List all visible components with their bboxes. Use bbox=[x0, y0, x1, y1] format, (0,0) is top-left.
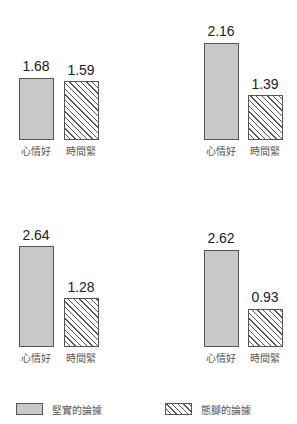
value-label: 1.68 bbox=[11, 58, 61, 74]
legend-swatch-hatched bbox=[165, 403, 192, 415]
category-label: 時間緊 bbox=[56, 143, 106, 158]
category-label: 心情好 bbox=[196, 350, 246, 365]
category-label: 心情好 bbox=[196, 143, 246, 158]
bar-time-pressure bbox=[64, 298, 99, 347]
legend-label-solid: 堅實的論據 bbox=[52, 402, 102, 417]
value-label: 1.39 bbox=[240, 76, 290, 92]
value-label: 2.64 bbox=[11, 227, 61, 243]
bar-good-mood bbox=[19, 246, 54, 347]
bar-good-mood bbox=[19, 78, 54, 140]
category-label: 時間緊 bbox=[240, 143, 290, 158]
value-label: 1.28 bbox=[56, 279, 106, 295]
category-label: 時間緊 bbox=[56, 350, 106, 365]
bar-time-pressure bbox=[64, 81, 99, 140]
chart-panel-4: 2.62 0.93 心情好 時間緊 bbox=[149, 212, 297, 424]
bar-time-pressure bbox=[248, 95, 283, 140]
category-label: 心情好 bbox=[11, 350, 61, 365]
legend-label-hatched: 態腳的論據 bbox=[201, 402, 251, 417]
category-label: 心情好 bbox=[11, 143, 61, 158]
value-label: 1.59 bbox=[56, 62, 106, 78]
legend-swatch-solid bbox=[16, 403, 43, 415]
value-label: 2.62 bbox=[196, 230, 246, 246]
bar-good-mood bbox=[204, 43, 239, 140]
chart-panel-3: 2.64 1.28 心情好 時間緊 bbox=[0, 212, 148, 424]
bar-good-mood bbox=[204, 250, 239, 347]
chart-panel-2: 2.16 1.39 心情好 時間緊 bbox=[149, 0, 297, 212]
bar-time-pressure bbox=[248, 309, 283, 347]
chart-panel-1: 1.68 1.59 心情好 時間緊 bbox=[0, 0, 148, 212]
value-label: 2.16 bbox=[196, 23, 246, 39]
value-label: 0.93 bbox=[240, 289, 290, 305]
category-label: 時間緊 bbox=[240, 350, 290, 365]
